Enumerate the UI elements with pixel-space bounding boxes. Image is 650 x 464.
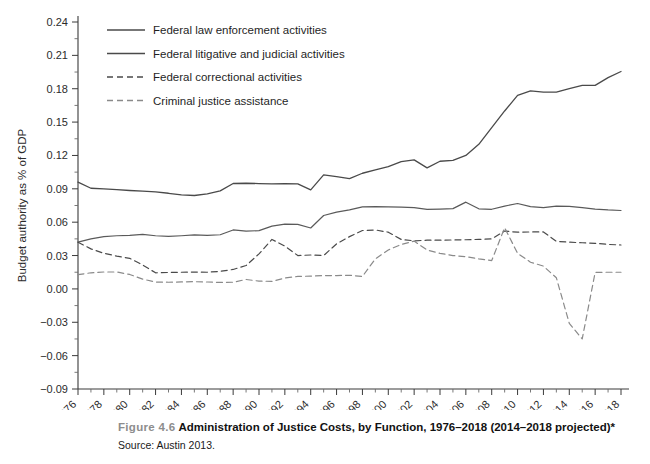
x-tick-label: 1998 bbox=[337, 398, 363, 410]
legend-label-2: Federal correctional activities bbox=[153, 71, 302, 83]
x-tick-label: 2000 bbox=[363, 398, 389, 410]
y-axis-title: Budget authority as % of GDP bbox=[16, 128, 28, 282]
figure-source: Source: Austin 2013. bbox=[118, 439, 646, 451]
x-tick-label: 1996 bbox=[311, 398, 337, 410]
y-tick-label: 0.18 bbox=[47, 83, 68, 95]
x-tick-label: 1990 bbox=[234, 398, 260, 410]
figure-caption: Figure 4.6 Administration of Justice Cos… bbox=[118, 420, 646, 451]
y-tick-label: 0.06 bbox=[47, 216, 68, 228]
legend-label-1: Federal litigative and judicial activiti… bbox=[153, 48, 345, 60]
x-tick-label: 1994 bbox=[285, 398, 311, 410]
x-tick-label: 2006 bbox=[440, 398, 466, 410]
x-tick-label: 2012 bbox=[518, 398, 544, 410]
x-tick-label: 2018 bbox=[596, 398, 622, 410]
series-layer bbox=[78, 71, 621, 338]
line-chart: 0.240.210.180.150.120.090.060.030.00−0.0… bbox=[0, 0, 650, 410]
x-tick-label: 1982 bbox=[130, 398, 156, 410]
x-tick-label: 2014 bbox=[544, 398, 570, 410]
chart-legend: Federal law enforcement activitiesFedera… bbox=[107, 24, 345, 107]
x-tick-label: 2002 bbox=[389, 398, 415, 410]
y-tick-label: −0.09 bbox=[40, 383, 68, 395]
x-tick-label: 1986 bbox=[182, 398, 208, 410]
legend-label-3: Criminal justice assistance bbox=[153, 95, 289, 107]
caption-title-line: Figure 4.6 Administration of Justice Cos… bbox=[118, 420, 646, 435]
y-tick-label: 0.00 bbox=[47, 283, 68, 295]
x-tick-label: 2004 bbox=[415, 398, 441, 410]
figure-number: Figure 4.6 bbox=[118, 421, 175, 433]
x-tick-label: 2016 bbox=[570, 398, 596, 410]
y-tick-label: 0.09 bbox=[47, 183, 68, 195]
y-tick-label: −0.06 bbox=[40, 350, 68, 362]
x-tick-label: 1980 bbox=[104, 398, 130, 410]
x-tick-label: 2008 bbox=[466, 398, 492, 410]
x-tick-label: 2010 bbox=[492, 398, 518, 410]
x-axis: 1976197819801982198419861988199019921994… bbox=[53, 389, 629, 410]
y-tick-label: −0.03 bbox=[40, 316, 68, 328]
x-tick-label: 1978 bbox=[78, 398, 104, 410]
legend-label-0: Federal law enforcement activities bbox=[153, 24, 327, 36]
x-tick-label: 1992 bbox=[259, 398, 285, 410]
x-tick-label: 1976 bbox=[53, 398, 79, 410]
x-tick-label: 1988 bbox=[208, 398, 234, 410]
y-axis: 0.240.210.180.150.120.090.060.030.00−0.0… bbox=[40, 16, 78, 395]
series-line-criminal-justice-assistance bbox=[78, 228, 621, 339]
y-tick-label: 0.15 bbox=[47, 116, 68, 128]
y-tick-label: 0.21 bbox=[47, 49, 68, 61]
figure-container: 0.240.210.180.150.120.090.060.030.00−0.0… bbox=[0, 0, 650, 464]
figure-title: Administration of Justice Costs, by Func… bbox=[179, 421, 616, 433]
y-tick-label: 0.24 bbox=[47, 16, 68, 28]
y-tick-label: 0.12 bbox=[47, 149, 68, 161]
x-tick-label: 1984 bbox=[156, 398, 182, 410]
series-line-federal-law-enforcement-activities bbox=[78, 71, 621, 195]
y-tick-label: 0.03 bbox=[47, 250, 68, 262]
